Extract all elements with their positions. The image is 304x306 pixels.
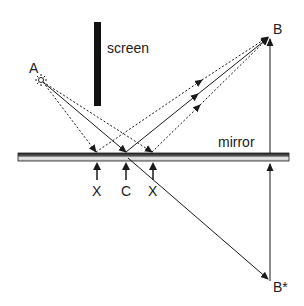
point-b-star-label: B* bbox=[273, 279, 288, 295]
mirror-label: mirror bbox=[218, 134, 255, 150]
ray-c-to-b bbox=[126, 94, 198, 152]
mirror-bar bbox=[18, 153, 289, 161]
c-label: C bbox=[121, 183, 131, 199]
point-a-label: A bbox=[29, 60, 39, 76]
point-b-label: B bbox=[273, 21, 282, 37]
reflection-diagram: screen A mirror B* B bbox=[0, 0, 304, 306]
screen-label: screen bbox=[107, 40, 149, 56]
ray-a-to-c bbox=[43, 82, 126, 152]
ray-x-left-to-b bbox=[96, 80, 202, 152]
x-right-label: X bbox=[148, 183, 158, 199]
ray-a-to-x-left bbox=[43, 82, 96, 152]
x-left-label: X bbox=[92, 183, 102, 199]
screen-bar bbox=[94, 22, 101, 106]
ray-c-to-b-star bbox=[128, 158, 268, 279]
